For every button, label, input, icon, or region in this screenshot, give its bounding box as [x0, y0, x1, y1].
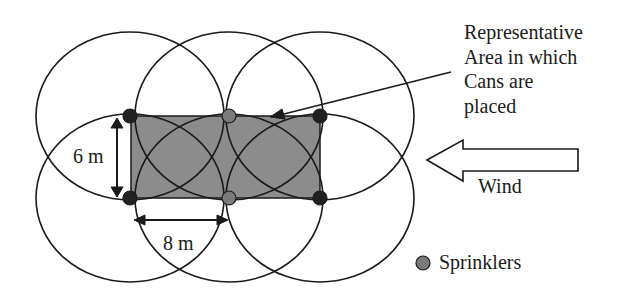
- wind-label: Wind: [478, 175, 522, 198]
- annotation-line: Representative: [464, 20, 583, 45]
- dimension-label-vertical: 6 m: [73, 145, 104, 168]
- legend-sprinkler-icon: [416, 256, 430, 270]
- annotation-line: Cans are: [464, 69, 583, 94]
- representative-area: [131, 116, 320, 198]
- annotation-pointer: [270, 72, 451, 119]
- annotation-line: Area in which: [464, 45, 583, 70]
- legend-label: Sprinklers: [439, 251, 521, 274]
- dimension-arrow-vertical: [111, 118, 123, 197]
- dimension-label-horizontal: 8 m: [163, 232, 194, 255]
- annotation-text: Representative Area in which Cans are pl…: [464, 20, 583, 118]
- dimension-arrow-horizontal: [134, 215, 228, 225]
- annotation-line: placed: [464, 94, 583, 119]
